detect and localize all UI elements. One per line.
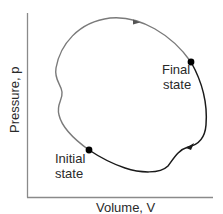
final-state-label-line2: state — [163, 77, 191, 92]
initial-state-label-line2: state — [55, 166, 83, 181]
y-axis-label: Pressure, p — [7, 67, 22, 133]
final-state-label-line1: Final — [162, 62, 190, 77]
initial-state-label-line1: Initial — [55, 151, 85, 166]
x-axis-label: Volume, V — [96, 200, 156, 214]
initial-state-dot — [86, 147, 93, 154]
pv-diagram: Final state Initial state Volume, V Pres… — [0, 0, 223, 214]
